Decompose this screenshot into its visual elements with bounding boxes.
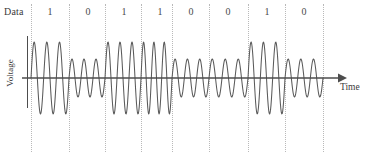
time-axis-label: Time (340, 82, 360, 92)
voltage-axis-line (27, 36, 28, 108)
voltage-axis-label: Voltage (5, 47, 15, 99)
ask-modulation-diagram: Data 10110010 Voltage Time (0, 0, 375, 156)
waveform-layer (0, 0, 375, 156)
clipped-footer-text (60, 149, 300, 156)
